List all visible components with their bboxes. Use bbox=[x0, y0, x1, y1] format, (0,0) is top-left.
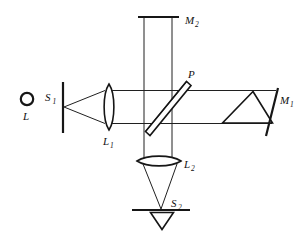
label-source-slit-text: S bbox=[45, 91, 51, 103]
label-screen-slit-sub: 2 bbox=[178, 203, 182, 212]
label-lamp: L bbox=[22, 110, 29, 122]
label-lens-2-text: L bbox=[183, 158, 190, 170]
label-screen-slit-text: S bbox=[171, 197, 177, 209]
label-mirror-1-sub: 1 bbox=[290, 100, 294, 109]
label-lens-1-sub: 1 bbox=[110, 141, 114, 150]
label-lens-2-sub: 2 bbox=[191, 164, 195, 173]
label-lens-1-text: L bbox=[102, 135, 109, 147]
optical-diagram-figure: L S 1 L 1 M 2 P M 1 L 2 bbox=[0, 0, 303, 237]
lamp-circle-icon bbox=[21, 93, 33, 105]
label-plate-text: P bbox=[187, 68, 195, 80]
label-source-slit-sub: 1 bbox=[53, 97, 57, 106]
optical-diagram-canvas: L S 1 L 1 M 2 P M 1 L 2 bbox=[0, 0, 303, 237]
label-mirror-1-text: M bbox=[279, 94, 290, 106]
label-mirror-2-text: M bbox=[184, 14, 195, 26]
lamp-source bbox=[21, 93, 33, 105]
label-lamp-text: L bbox=[22, 110, 29, 122]
label-plate: P bbox=[187, 68, 195, 80]
label-mirror-2-sub: 2 bbox=[195, 20, 199, 29]
